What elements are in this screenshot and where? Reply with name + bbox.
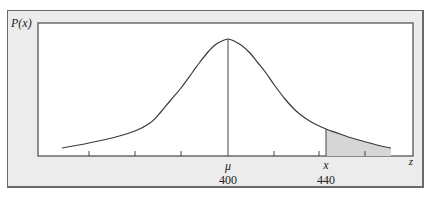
plot-area [38,23,413,156]
y-axis-label: P(x) [11,17,32,29]
mu-value-label: 400 [219,174,237,186]
x-label: x [323,159,328,171]
z-axis-label: z [409,156,413,167]
mu-label: μ [225,160,231,172]
x-value-label: 440 [317,174,335,186]
normal-curve-chart [0,0,432,199]
